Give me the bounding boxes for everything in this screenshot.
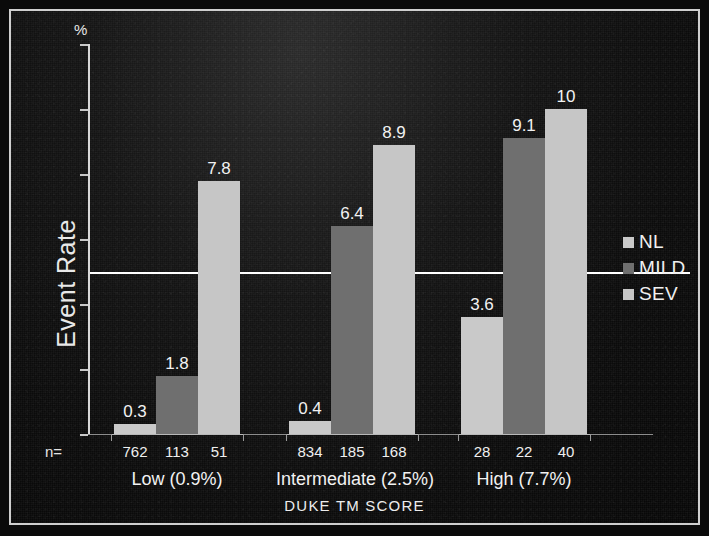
bar-int-nl — [289, 421, 331, 434]
value-label-int-sev: 8.9 — [365, 123, 423, 143]
n-value-low-sev: 51 — [198, 443, 240, 460]
n-value-int-mild: 185 — [331, 443, 373, 460]
legend-label-mild: MILD — [639, 257, 686, 279]
legend-swatch-mild — [623, 263, 634, 274]
legend-label-sev: SEV — [639, 283, 678, 305]
n-value-int-sev: 168 — [373, 443, 415, 460]
group-label-low: Low (0.9%) — [111, 469, 243, 490]
legend-item-sev[interactable]: SEV — [623, 281, 686, 307]
group-label-intermediate: Intermediate (2.5%) — [276, 469, 428, 490]
legend-item-nl[interactable]: NL — [623, 229, 686, 255]
group-tick-high-right — [590, 434, 591, 441]
value-label-high-nl: 3.6 — [453, 295, 511, 315]
legend-swatch-nl — [623, 237, 634, 248]
n-value-high-sev: 40 — [545, 443, 587, 460]
bar-high-nl — [461, 317, 503, 434]
value-label-low-mild: 1.8 — [148, 354, 206, 374]
group-tick-high-left — [458, 434, 459, 441]
group-underline-high — [458, 434, 590, 435]
group-tick-intermediate-left — [286, 434, 287, 441]
group-tick-low-left — [111, 434, 112, 441]
x-axis-title: DUKE TM SCORE — [11, 497, 698, 514]
group-tick-low-right — [243, 434, 244, 441]
value-label-int-nl: 0.4 — [281, 399, 339, 419]
y-axis-tick — [80, 434, 88, 436]
value-label-high-sev: 10 — [537, 87, 595, 107]
n-value-low-mild: 113 — [156, 443, 198, 460]
legend-swatch-sev — [623, 289, 634, 300]
n-value-int-nl: 834 — [289, 443, 331, 460]
bar-int-sev — [373, 145, 415, 434]
group-underline-low — [111, 434, 243, 435]
group-tick-intermediate-right — [418, 434, 419, 441]
value-label-int-mild: 6.4 — [323, 204, 381, 224]
n-value-high-mild: 22 — [503, 443, 545, 460]
n-value-low-nl: 762 — [114, 443, 156, 460]
value-label-low-nl: 0.3 — [106, 402, 164, 422]
n-row-prefix: n= — [45, 443, 62, 460]
bar-low-nl — [114, 424, 156, 434]
bar-high-sev — [545, 109, 587, 434]
n-value-high-nl: 28 — [461, 443, 503, 460]
figure-container: % Event Rate 0.3 1.8 7.8 0.4 6.4 8.9 3.6… — [0, 0, 709, 536]
bar-low-sev — [198, 181, 240, 435]
group-underline-intermediate — [286, 434, 418, 435]
legend: NL MILD SEV — [623, 229, 686, 307]
value-label-low-sev: 7.8 — [190, 159, 248, 179]
legend-item-mild[interactable]: MILD — [623, 255, 686, 281]
value-label-high-mild: 9.1 — [495, 116, 553, 136]
legend-label-nl: NL — [639, 231, 664, 253]
chart-frame: % Event Rate 0.3 1.8 7.8 0.4 6.4 8.9 3.6… — [9, 9, 700, 525]
group-label-high: High (7.7%) — [458, 469, 590, 490]
bar-high-mild — [503, 138, 545, 434]
